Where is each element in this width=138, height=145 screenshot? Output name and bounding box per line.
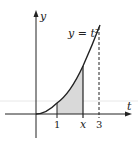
curve-label: y = t² [67, 27, 99, 40]
y-axis-arrow-icon [34, 10, 39, 17]
y-axis-label: y [39, 10, 47, 23]
tick-label-3: 3 [96, 119, 102, 130]
t-axis-label: t [127, 100, 132, 113]
area-under-parabola-diagram: y t y = t² 1 x 3 [0, 0, 138, 145]
tick-label-1: 1 [54, 119, 60, 130]
tick-label-x: x [80, 118, 87, 131]
